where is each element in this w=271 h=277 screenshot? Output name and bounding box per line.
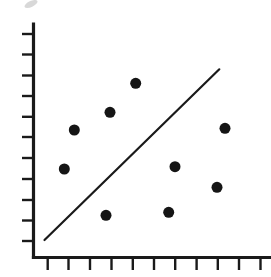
data-point xyxy=(130,78,141,89)
scan-smudge xyxy=(23,0,38,10)
trend-line xyxy=(45,69,220,240)
data-point xyxy=(59,164,70,175)
data-point xyxy=(220,123,231,134)
y-axis-ticks xyxy=(22,34,33,241)
data-point xyxy=(163,207,174,218)
data-point xyxy=(170,161,181,172)
data-point xyxy=(69,125,80,136)
data-point xyxy=(101,210,112,221)
scatter-chart xyxy=(0,0,271,277)
x-axis-ticks xyxy=(48,258,261,270)
trend-line-segment xyxy=(45,69,220,240)
data-point xyxy=(105,107,116,118)
data-point xyxy=(212,182,223,193)
